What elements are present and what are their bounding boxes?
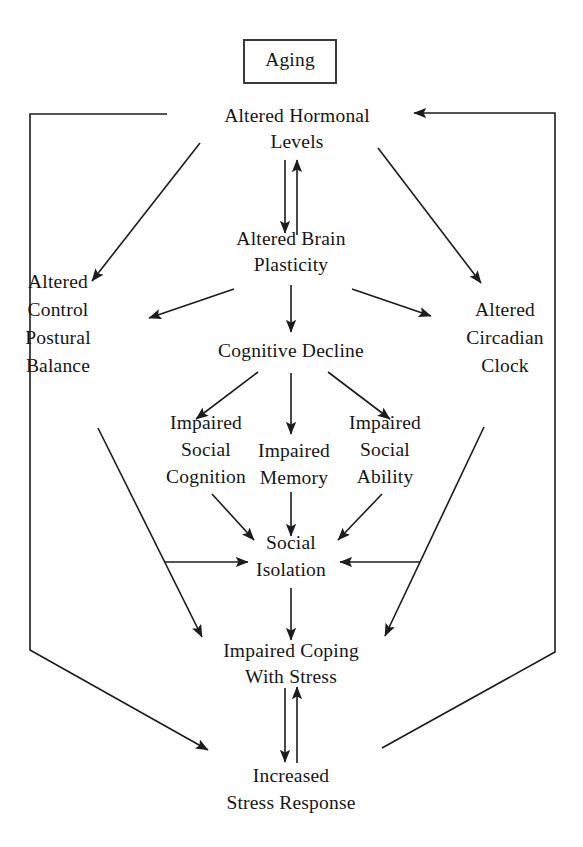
node-altered-circadian-clock[interactable]: AlteredCircadianClock bbox=[430, 294, 580, 386]
diagram-root: AgingAltered HormonalLevelsAltered Brain… bbox=[0, 0, 583, 847]
node-impaired-coping-with-stress[interactable]: Impaired CopingWith Stress bbox=[216, 636, 366, 696]
flow-diagram-canvas: AgingAltered HormonalLevelsAltered Brain… bbox=[0, 0, 583, 847]
node-altered-hormonal-levels[interactable]: Altered HormonalLevels bbox=[222, 101, 372, 161]
node-aging[interactable]: Aging bbox=[244, 40, 336, 83]
node-layer: AgingAltered HormonalLevelsAltered Brain… bbox=[0, 40, 580, 822]
edge-hormonal-to-postural bbox=[92, 143, 200, 281]
edge-hormonal-to-circadian bbox=[378, 148, 481, 283]
node-social-isolation[interactable]: SocialIsolation bbox=[216, 527, 366, 589]
edge-plasticity-to-postural bbox=[149, 289, 234, 318]
node-aging-label: Aging bbox=[265, 49, 315, 70]
node-altered-control-postural-balance[interactable]: AlteredControlPosturalBalance bbox=[0, 266, 133, 386]
node-increased-stress-response[interactable]: IncreasedStress Response bbox=[216, 760, 366, 822]
node-altered-brain-plasticity[interactable]: Altered BrainPlasticity bbox=[216, 224, 366, 284]
node-cognitive-decline[interactable]: Cognitive Decline bbox=[216, 336, 366, 370]
node-impaired-social-ability[interactable]: ImpairedSocialAbility bbox=[310, 408, 460, 497]
node-cognitive-decline-label: Cognitive Decline bbox=[218, 340, 364, 361]
edge-plasticity-to-circadian bbox=[352, 289, 431, 316]
